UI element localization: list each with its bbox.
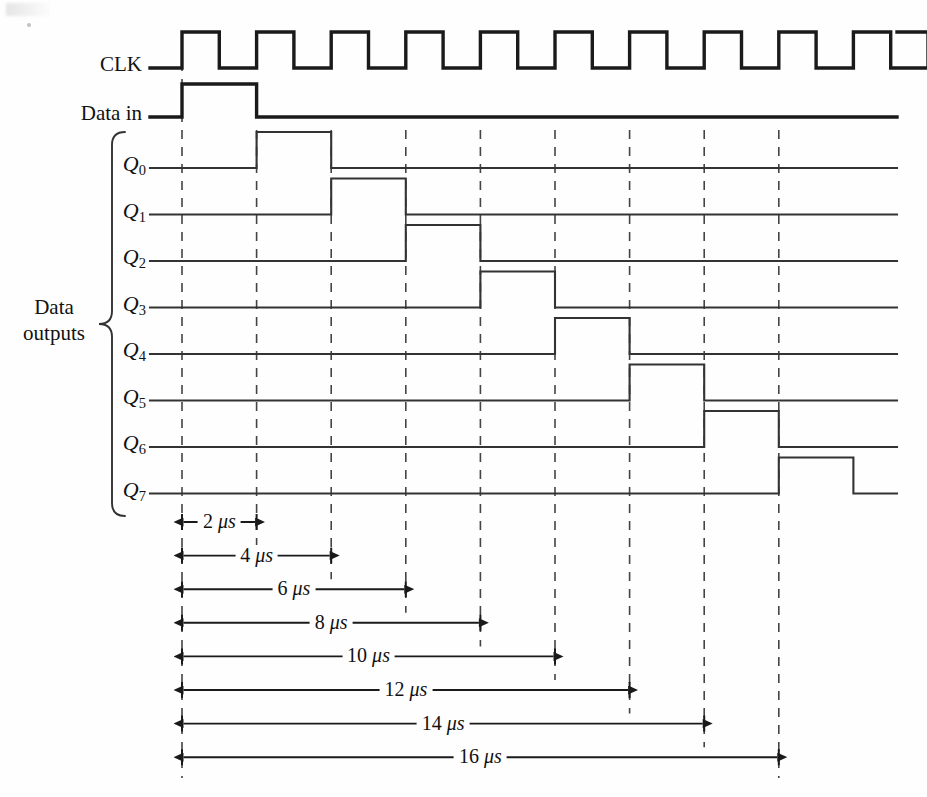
output-label-subscript: 3 [139,302,146,318]
group-brace [99,132,125,516]
data-in-waveform [150,84,897,117]
dimension-value: 16 [459,745,484,767]
signal-label-q5: Q5 [118,386,146,411]
signal-traces [150,32,927,494]
dimension-unit: μs [218,510,236,532]
output-waveform-q2 [150,225,897,261]
clk-waveform [150,32,927,68]
dimension-label-2us: 2 μs [198,511,241,531]
signal-label-q4: Q4 [118,339,146,364]
output-label-subscript: 0 [139,162,146,178]
output-label-subscript: 5 [139,395,146,411]
output-waveform-q3 [150,272,897,308]
output-waveform-q5 [150,365,897,401]
dimension-label-16us: 16 μs [454,746,507,766]
signal-label-q1: Q1 [118,200,146,225]
output-label-base: Q [123,477,139,502]
output-waveform-q6 [150,411,897,447]
signal-label-q0: Q0 [118,153,146,178]
output-label-subscript: 4 [139,348,146,364]
signal-label-clk: CLK [0,54,142,75]
dimension-label-10us: 10 μs [342,645,395,665]
dimension-unit: μs [255,544,273,566]
output-label-base: Q [123,151,139,176]
output-label-base: Q [123,198,139,223]
dimension-unit: μs [447,712,465,734]
output-label-subscript: 7 [139,488,146,504]
output-label-base: Q [123,337,139,362]
dimension-label-8us: 8 μs [310,612,353,632]
signal-label-q2: Q2 [118,246,146,271]
data-outputs-brace [99,132,125,516]
dimension-label-12us: 12 μs [379,679,432,699]
output-label-base: Q [123,430,139,455]
dimension-value: 14 [422,712,447,734]
group-label-data-outputs: Data outputs [6,295,102,346]
signal-label-q6: Q6 [118,432,146,457]
signal-label-data-in: Data in [0,103,142,124]
signal-label-q3: Q3 [118,293,146,318]
group-label-line-2: outputs [23,321,85,345]
dimension-unit: μs [372,644,390,666]
output-waveform-q7 [150,458,897,494]
output-waveform-q1 [150,179,897,215]
dimension-value: 2 [203,510,218,532]
output-label-subscript: 2 [139,255,146,271]
dimension-label-6us: 6 μs [272,578,315,598]
output-label-subscript: 1 [139,209,146,225]
output-waveform-q4 [150,318,897,354]
dimension-unit: μs [409,678,427,700]
signal-label-q7: Q7 [118,479,146,504]
dimension-unit: μs [292,577,310,599]
dimension-value: 12 [384,678,409,700]
edge-guide-lines [182,62,779,778]
timing-diagram-figure: CLK Data in Data outputs Q0Q1Q2Q3Q4Q5Q6Q… [0,0,927,797]
dimension-value: 4 [240,544,255,566]
dimension-unit: μs [330,611,348,633]
dimension-value: 6 [277,577,292,599]
output-label-base: Q [123,244,139,269]
dimension-label-4us: 4 μs [235,545,278,565]
output-waveform-q0 [150,132,897,168]
dimension-value: 10 [347,644,372,666]
output-label-subscript: 6 [139,441,146,457]
output-label-base: Q [123,384,139,409]
group-label-line-1: Data [34,295,74,319]
dimension-unit: μs [484,745,502,767]
dimension-label-14us: 14 μs [417,713,470,733]
output-label-base: Q [123,291,139,316]
dimension-value: 8 [315,611,330,633]
